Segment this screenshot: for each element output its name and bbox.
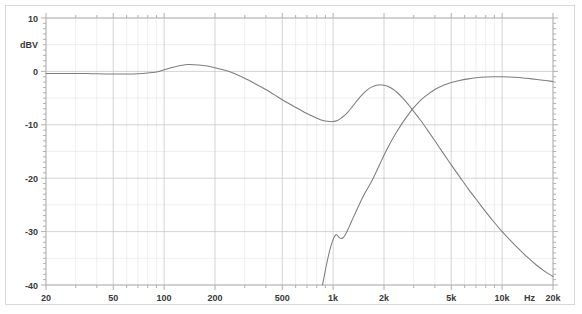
- y-tick-label--30: -30: [25, 227, 38, 237]
- x-tick-label-10k: 10k: [495, 293, 511, 303]
- y-axis-unit-label: dBV: [20, 40, 38, 50]
- series-highpass-response: [322, 77, 553, 285]
- x-axis-unit-label: Hz: [524, 293, 535, 303]
- x-tick-label-200: 200: [207, 293, 222, 303]
- x-tick-label-5k: 5k: [446, 293, 457, 303]
- frequency-response-chart: 20501002005001k2k5k10k20k 100-10-20-30-4…: [0, 0, 582, 314]
- x-tick-label-1k: 1k: [328, 293, 339, 303]
- x-tick-label-50: 50: [108, 293, 118, 303]
- x-tick-label-20: 20: [41, 293, 51, 303]
- y-tick-label-10: 10: [28, 14, 38, 24]
- minor-gridlines: [46, 18, 553, 285]
- x-axis-tick-labels: 20501002005001k2k5k10k20k: [41, 293, 562, 303]
- y-tick-label-0: 0: [33, 67, 38, 77]
- x-tick-label-2k: 2k: [379, 293, 390, 303]
- x-tick-label-20k: 20k: [545, 293, 561, 303]
- x-tick-label-500: 500: [275, 293, 290, 303]
- axis-unit-labels: dBVHz: [20, 40, 535, 303]
- x-tick-label-100: 100: [157, 293, 172, 303]
- y-tick-label--20: -20: [25, 174, 38, 184]
- series-lowpass-response: [46, 64, 553, 276]
- y-tick-label--10: -10: [25, 120, 38, 130]
- data-series-group: [46, 64, 553, 285]
- y-axis-tick-labels: 100-10-20-30-40: [25, 14, 38, 291]
- y-tick-label--40: -40: [25, 281, 38, 291]
- chart-screenshot: 20501002005001k2k5k10k20k 100-10-20-30-4…: [0, 0, 582, 314]
